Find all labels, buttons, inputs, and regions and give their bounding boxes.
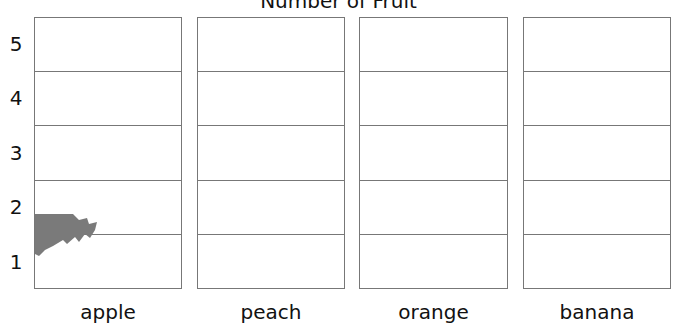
column-peach <box>197 17 345 289</box>
column-apple <box>34 17 182 289</box>
column-orange <box>359 17 508 289</box>
chart-title: Number of Fruit <box>0 0 677 13</box>
y-tick-5: 5 <box>8 32 24 56</box>
y-tick-1: 1 <box>8 250 24 274</box>
apple-shading <box>35 212 105 272</box>
x-label-orange: orange <box>359 300 508 324</box>
y-tick-4: 4 <box>8 86 24 110</box>
column-banana <box>523 17 671 289</box>
y-tick-2: 2 <box>8 195 24 219</box>
x-label-peach: peach <box>197 300 345 324</box>
y-tick-3: 3 <box>8 141 24 165</box>
x-label-banana: banana <box>523 300 671 324</box>
x-label-apple: apple <box>34 300 182 324</box>
